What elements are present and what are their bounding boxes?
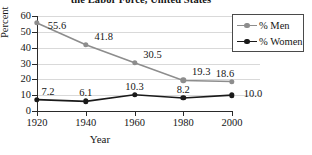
legend-label-men: % Men: [259, 20, 290, 31]
data-point-label: 30.5: [143, 50, 161, 60]
x-tick: [232, 111, 233, 116]
data-point-label: 55.6: [48, 21, 66, 31]
y-tick-label: 30: [21, 59, 32, 69]
legend-label-women: % Women: [259, 36, 303, 47]
data-point-label: 7.2: [41, 87, 54, 97]
x-tick-label: 2000: [222, 117, 243, 128]
data-point: [229, 79, 234, 84]
y-tick-label: 10: [21, 90, 32, 100]
legend-entry-men: % Men: [237, 18, 290, 33]
data-point-label: 8.2: [177, 85, 190, 95]
x-tick: [86, 111, 87, 116]
data-point-label: 6.1: [79, 88, 92, 98]
data-point-label: 41.8: [95, 32, 113, 42]
data-point-label: 19.3: [192, 67, 210, 77]
y-tick-label: 20: [21, 74, 32, 84]
data-point-label: 18.6: [216, 69, 234, 79]
y-tick-label: 50: [21, 27, 32, 37]
legend-entry-women: % Women: [237, 34, 303, 49]
legend-marker-women-icon: [237, 36, 257, 47]
chart-figure: the Labor Force, United States 010203040…: [0, 0, 312, 155]
data-point-label: 10.3: [125, 82, 143, 92]
x-tick: [37, 111, 38, 116]
y-tick-label: 40: [21, 43, 32, 53]
plot-area: 0102030405060 19201940196019802000 55.64…: [37, 16, 232, 111]
x-tick-label: 1940: [75, 117, 96, 128]
data-point-label: 10.0: [244, 89, 262, 99]
y-axis-title: Percent: [0, 7, 10, 39]
y-tick-label: 0: [26, 106, 31, 116]
legend: % Men % Women: [232, 14, 304, 52]
data-point: [229, 92, 234, 97]
x-tick-label: 1980: [173, 117, 194, 128]
x-tick-label: 1960: [124, 117, 145, 128]
legend-marker-men-icon: [237, 20, 257, 31]
chart-title: the Labor Force, United States: [46, 0, 236, 5]
x-tick: [135, 111, 136, 116]
x-tick-label: 1920: [27, 117, 48, 128]
x-axis-title: Year: [90, 133, 110, 145]
x-tick: [183, 111, 184, 116]
y-tick-label: 60: [21, 11, 32, 21]
